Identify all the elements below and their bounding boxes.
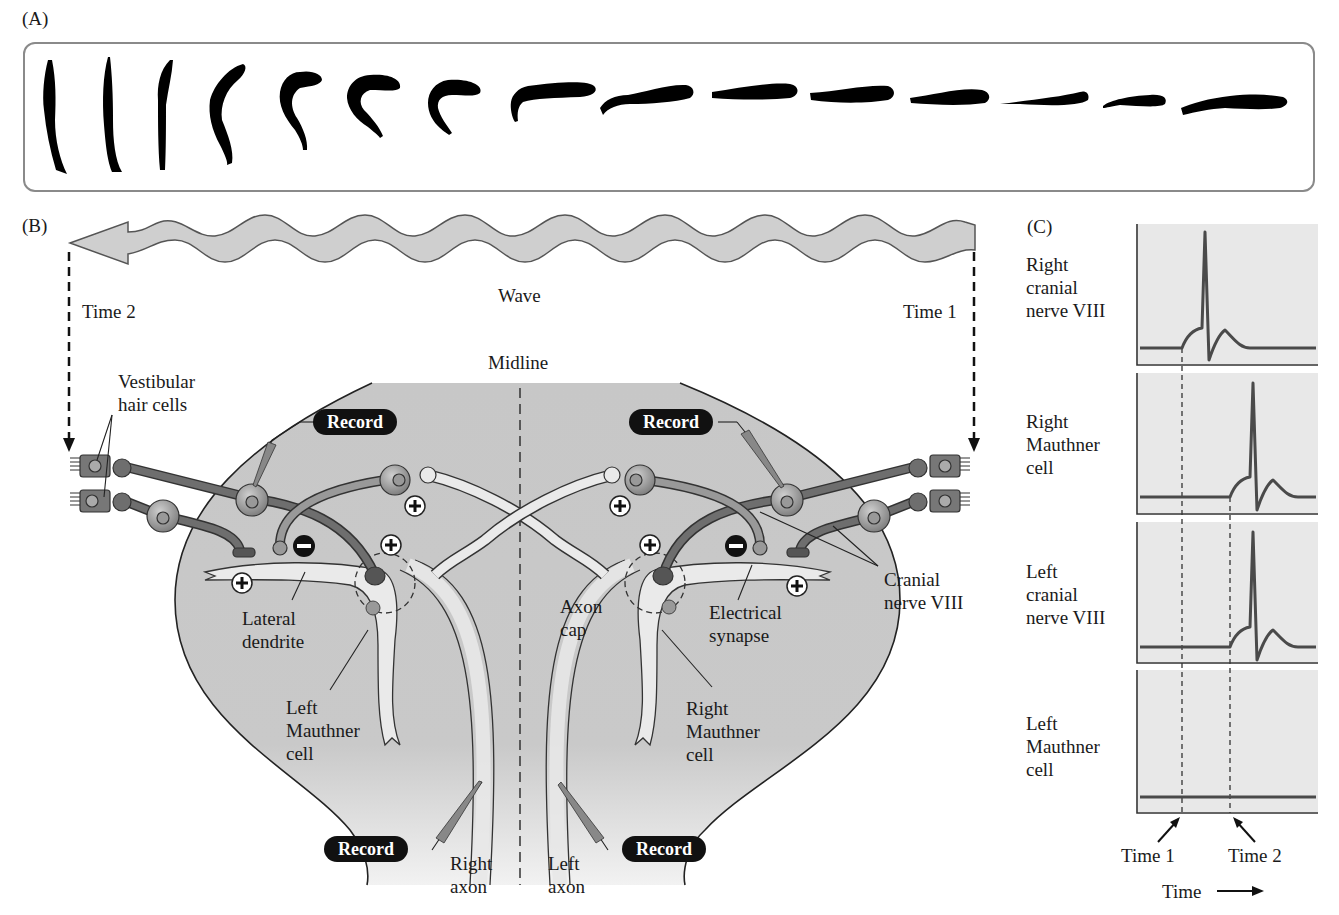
trace-time1-label: Time 1 <box>1121 844 1175 867</box>
trace-label-left-mauthner: Left Mauthner cell <box>1026 712 1100 781</box>
trace-label-right-mauthner: Right Mauthner cell <box>1026 410 1100 479</box>
trace-label-left-cranial-nerve: Left cranial nerve VIII <box>1026 560 1105 629</box>
trace-label-right-cranial-nerve: Right cranial nerve VIII <box>1026 253 1105 322</box>
trace-time2-label: Time 2 <box>1228 844 1282 867</box>
recording-traces <box>0 0 1339 915</box>
time-axis-label: Time <box>1162 880 1201 903</box>
